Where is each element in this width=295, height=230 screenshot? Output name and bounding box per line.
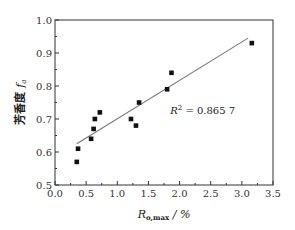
- x-tick-label: 2.0: [172, 188, 188, 199]
- x-tick-label: 1.5: [140, 188, 156, 199]
- y-tick-label: 0.6: [36, 147, 52, 158]
- y-axis-title: 芳香度 fa: [13, 79, 28, 124]
- x-tick-label: 3.5: [265, 188, 281, 199]
- plot-border: [55, 20, 273, 185]
- x-axis-symbol: R: [137, 208, 146, 221]
- axis-ticks: [55, 20, 273, 185]
- y-tick-label: 0.9: [36, 48, 52, 59]
- y-tick-label: 0.5: [36, 180, 52, 191]
- data-point-square: [76, 146, 81, 151]
- fit-line: [77, 38, 248, 144]
- y-tick-label: 0.7: [36, 114, 52, 125]
- x-axis-subscript: o,max: [146, 213, 170, 222]
- y-axis-subscript: a: [20, 79, 28, 83]
- x-axis-unit: / %: [169, 208, 190, 221]
- r-squared-annotation: R2 = 0.865 7: [169, 104, 235, 116]
- data-point-square: [250, 41, 255, 46]
- y-tick-label: 1.0: [36, 15, 52, 26]
- r-value: = 0.865 7: [182, 105, 235, 116]
- y-tick-label: 0.8: [36, 81, 52, 92]
- data-points: [75, 41, 255, 164]
- x-tick-label: 2.5: [203, 188, 219, 199]
- axis-tick-labels: 0.00.51.01.52.02.53.03.50.50.60.70.80.91…: [36, 15, 281, 200]
- data-point-square: [93, 117, 98, 122]
- data-point-square: [91, 127, 96, 132]
- scatter-chart: 0.00.51.01.52.02.53.03.50.50.60.70.80.91…: [0, 0, 295, 230]
- y-axis-label: 芳香度: [13, 88, 27, 125]
- data-point-square: [165, 87, 170, 92]
- data-point-square: [75, 160, 80, 165]
- x-tick-label: 1.0: [109, 188, 125, 199]
- x-tick-label: 3.0: [234, 188, 250, 199]
- x-tick-label: 0.5: [78, 188, 94, 199]
- regression-line: [77, 38, 248, 144]
- data-point-square: [89, 137, 94, 142]
- plot-frame: [55, 20, 273, 185]
- data-point-square: [134, 123, 139, 128]
- data-point-square: [169, 71, 174, 76]
- data-point-square: [129, 117, 134, 122]
- x-axis-title: Ro,max / %: [137, 208, 191, 222]
- data-point-square: [98, 110, 103, 115]
- data-point-square: [137, 100, 142, 105]
